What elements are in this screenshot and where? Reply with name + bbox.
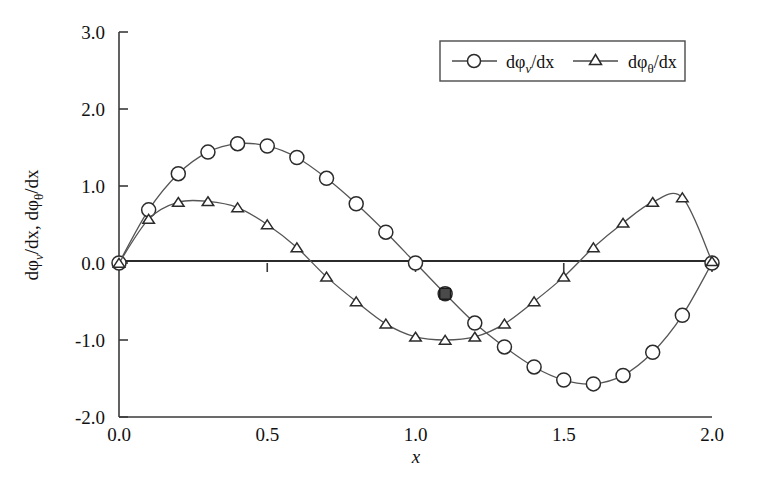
data-point-marker <box>201 145 215 159</box>
data-point-marker <box>646 345 660 359</box>
x-tick-label: 1.5 <box>552 424 576 445</box>
data-point-marker <box>647 198 659 207</box>
data-point-marker <box>349 197 363 211</box>
data-point-marker <box>468 316 482 330</box>
y-tick-label: 0.0 <box>81 253 105 274</box>
x-tick-label: 0.5 <box>255 424 279 445</box>
data-series-group <box>112 137 719 391</box>
data-point-marker <box>260 139 274 153</box>
data-point-marker <box>171 167 185 181</box>
data-point-marker <box>469 332 481 341</box>
data-point-marker <box>586 377 600 391</box>
x-tick-label: 1.0 <box>404 424 428 445</box>
series-dphi-v <box>112 137 719 391</box>
data-point-marker <box>675 308 689 322</box>
x-tick-labels: 0.00.51.01.52.0 <box>107 424 724 445</box>
y-tick-marks <box>119 32 128 417</box>
y-tick-label: 2.0 <box>81 99 105 120</box>
y-title-mid: /dx, dφ <box>21 200 42 254</box>
y-axis-title: dφv/dx, dφθ/dx <box>21 169 46 281</box>
data-point-marker <box>320 171 334 185</box>
y-title-end: /dx <box>21 169 42 194</box>
y-tick-label: 1.0 <box>81 176 105 197</box>
data-point-marker <box>527 360 541 374</box>
y-tick-labels: 3.02.01.00.0-1.0-2.0 <box>75 22 105 428</box>
data-point-marker <box>232 203 244 212</box>
highlighted-data-point-marker <box>440 288 451 299</box>
data-point-marker <box>557 373 571 387</box>
y-tick-label: -1.0 <box>75 330 105 351</box>
data-point-marker <box>379 225 393 239</box>
data-point-marker <box>231 137 245 151</box>
x-tick-label: 0.0 <box>107 424 131 445</box>
circle-marker-icon <box>468 55 481 68</box>
line-chart: 3.02.01.00.0-1.0-2.0 0.00.51.01.52.0 x d… <box>0 0 764 486</box>
x-tick-marks <box>267 263 712 272</box>
chart-legend[interactable]: dφv/dx dφθ/dx <box>440 41 685 81</box>
svg-text:dφv/dx, dφθ/dx: dφv/dx, dφθ/dx <box>21 169 46 281</box>
chart-figure: 3.02.01.00.0-1.0-2.0 0.00.51.01.52.0 x d… <box>0 0 764 486</box>
y-tick-label: 3.0 <box>81 22 105 43</box>
data-point-marker <box>290 151 304 165</box>
y-title-d-phi-v: dφ <box>21 260 42 281</box>
data-point-marker <box>410 332 422 341</box>
data-point-marker <box>409 256 423 270</box>
y-tick-label: -2.0 <box>75 407 105 428</box>
data-point-marker <box>616 368 630 382</box>
data-point-marker <box>497 340 511 354</box>
x-axis-title: x <box>411 446 421 467</box>
x-tick-label: 2.0 <box>700 424 724 445</box>
